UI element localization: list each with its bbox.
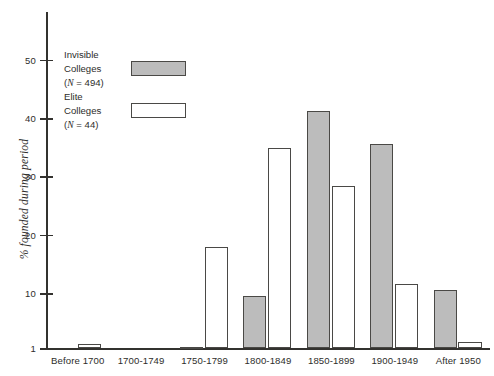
y-tick-label-1: 1 xyxy=(14,343,36,354)
bar-elite-1750-1799 xyxy=(205,247,228,348)
y-tick-mark-10 xyxy=(40,293,53,295)
x-category-label-1700-1749: 1700-1749 xyxy=(109,355,172,366)
legend-elite-line2: Colleges xyxy=(64,104,126,118)
legend-swatch-invisible-colleges xyxy=(131,61,186,76)
y-tick-mark-20 xyxy=(40,235,53,237)
bar-invisible-1900-1949 xyxy=(370,144,393,349)
chart-legend: Invisible Colleges (N = 494) Elite Colle… xyxy=(64,48,189,132)
x-category-label-after-1950: After 1950 xyxy=(427,355,490,366)
bar-invisible-after-1950 xyxy=(434,290,457,348)
bar-invisible-1800-1849 xyxy=(243,296,266,348)
y-tick-mark-30 xyxy=(40,176,53,178)
legend-invisible-count: = 494) xyxy=(74,77,104,88)
legend-swatch-elite-colleges xyxy=(131,103,186,118)
y-tick-label-50: 50 xyxy=(14,55,36,66)
y-tick-label-20: 20 xyxy=(14,230,36,241)
x-axis-line xyxy=(46,348,490,350)
bar-elite-1900-1949 xyxy=(395,284,418,348)
legend-invisible-line1: Invisible xyxy=(64,48,126,62)
bar-elite-1850-1899 xyxy=(332,186,355,348)
legend-invisible-line3: (N = 494) xyxy=(64,76,126,90)
y-tick-mark-1 xyxy=(40,348,53,350)
y-axis-title: % founded during period xyxy=(18,129,30,269)
y-axis-line xyxy=(46,12,48,349)
y-tick-label-30: 30 xyxy=(14,171,36,182)
y-tick-mark-50 xyxy=(40,60,53,62)
histogram-chart: % founded during period 1 10 20 30 40 50… xyxy=(0,0,494,376)
x-category-label-1850-1899: 1850-1899 xyxy=(300,355,363,366)
y-tick-label-40: 40 xyxy=(14,113,36,124)
bar-elite-after-1950 xyxy=(458,342,481,349)
legend-elite-count: = 44) xyxy=(74,119,99,130)
y-tick-label-10: 10 xyxy=(14,288,36,299)
legend-elite-line1: Elite xyxy=(64,90,126,104)
legend-elite-line3: (N = 44) xyxy=(64,118,126,132)
bar-elite-before-1700 xyxy=(78,344,101,348)
legend-invisible-line2: Colleges xyxy=(64,62,126,76)
legend-entry-invisible-colleges: Invisible Colleges (N = 494) xyxy=(64,48,189,90)
x-category-label-1750-1799: 1750-1799 xyxy=(173,355,236,366)
x-category-label-1800-1849: 1800-1849 xyxy=(236,355,299,366)
legend-label-invisible: Invisible Colleges (N = 494) xyxy=(64,48,126,91)
y-tick-mark-40 xyxy=(40,118,53,120)
x-category-label-1900-1949: 1900-1949 xyxy=(363,355,426,366)
bar-invisible-1750-1799 xyxy=(180,347,203,349)
legend-entry-elite-colleges: Elite Colleges (N = 44) xyxy=(64,90,189,132)
bar-invisible-1850-1899 xyxy=(307,111,330,348)
legend-label-elite: Elite Colleges (N = 44) xyxy=(64,90,126,133)
x-category-label-before-1700: Before 1700 xyxy=(46,355,109,366)
bar-elite-1800-1849 xyxy=(268,148,291,348)
